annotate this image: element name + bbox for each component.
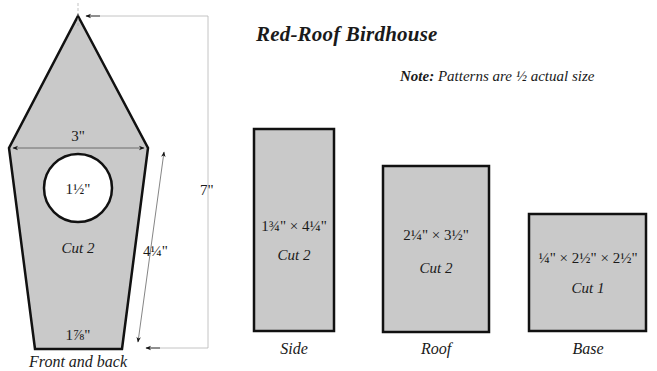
roof-label: Roof bbox=[421, 340, 451, 358]
front-bottom-dim: 1⅞" bbox=[66, 327, 91, 344]
front-height-dim: 7" bbox=[200, 182, 214, 199]
page-title: Red-Roof Birdhouse bbox=[256, 22, 438, 47]
front-cut: Cut 2 bbox=[62, 240, 95, 257]
base-cut: Cut 1 bbox=[572, 280, 605, 297]
side-label: Side bbox=[280, 340, 308, 358]
note: Note: Patterns are ½ actual size bbox=[400, 68, 594, 85]
side-dims: 1¾" × 4¼" bbox=[261, 218, 327, 235]
front-hole-dim: 1½" bbox=[66, 181, 91, 198]
front-width-dim: 3" bbox=[71, 128, 85, 145]
roof-dims: 2¼" × 3½" bbox=[403, 227, 469, 244]
front-label: Front and back bbox=[29, 353, 127, 371]
roof-panel bbox=[383, 166, 489, 332]
side-cut: Cut 2 bbox=[278, 247, 311, 264]
roof-cut: Cut 2 bbox=[420, 260, 453, 277]
base-dims: ¼" × 2½" × 2½" bbox=[538, 250, 637, 267]
note-label: Note: bbox=[400, 68, 434, 84]
front-side-dim: 4¼" bbox=[143, 243, 168, 260]
base-label: Base bbox=[572, 340, 603, 358]
pattern-drawing bbox=[0, 0, 657, 371]
base-panel bbox=[529, 214, 646, 331]
note-text: Patterns are ½ actual size bbox=[438, 68, 595, 84]
